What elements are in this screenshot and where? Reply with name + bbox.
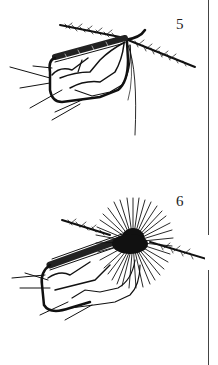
figure-6: 6 [0, 180, 205, 365]
page-margin-rule [208, 270, 209, 365]
figure-5: 5 [0, 0, 205, 180]
fly-illustration-step-6 [0, 180, 205, 365]
fly-illustration-step-5 [0, 0, 205, 180]
page-margin-rule [208, 0, 209, 235]
